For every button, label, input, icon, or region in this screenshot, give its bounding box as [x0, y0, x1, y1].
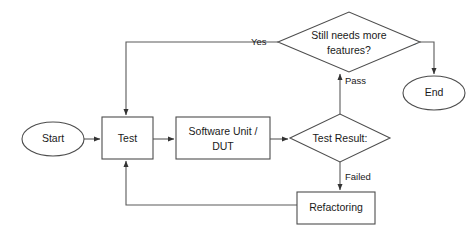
node-start[interactable]: Start [22, 122, 84, 156]
node-refactoring[interactable]: Refactoring [297, 192, 375, 224]
end-label: End [425, 86, 444, 98]
software-unit-rect [176, 117, 270, 159]
edge-label-yes: Yes [251, 36, 267, 47]
node-end[interactable]: End [403, 76, 465, 110]
flowchart-diagram: Pass Failed Yes No Start Test Software U… [0, 0, 470, 236]
still-needs-more-features-label-line1: Still needs more [311, 29, 386, 41]
start-label: Start [42, 132, 64, 144]
test-result-label: Test Result: [313, 132, 368, 144]
software-unit-label-line1: Software Unit / [189, 125, 258, 137]
still-needs-more-features-label-line2: features? [327, 44, 371, 56]
software-unit-label-line2: DUT [212, 140, 234, 152]
node-software-unit-dut[interactable]: Software Unit / DUT [176, 117, 270, 159]
test-label: Test [118, 132, 137, 144]
edge-label-failed: Failed [345, 171, 371, 182]
edge-label-pass: Pass [345, 75, 366, 86]
refactoring-label: Refactoring [309, 201, 363, 213]
node-test[interactable]: Test [102, 117, 153, 159]
